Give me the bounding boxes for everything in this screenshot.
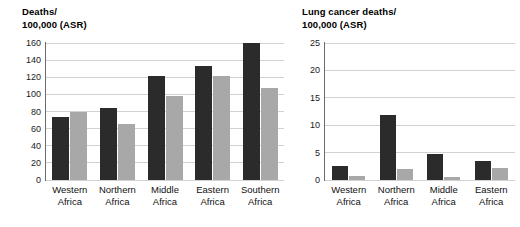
bar-series-dark-southern-africa — [243, 43, 260, 180]
bar-series-light-eastern-africa — [492, 168, 508, 180]
x-axis-category-label: Western Africa — [46, 184, 94, 208]
gridline — [325, 97, 515, 98]
bar-series-dark-western-africa — [332, 166, 348, 180]
x-axis-category-label: Northern Africa — [94, 184, 142, 208]
bar-series-light-northern-africa — [118, 124, 135, 180]
y-axis-tick-label: 40 — [5, 141, 41, 150]
bar-series-light-northern-africa — [397, 169, 413, 181]
y-axis-tick-label: 140 — [5, 56, 41, 65]
y-axis-tick-label: 60 — [5, 124, 41, 133]
y-axis-tick-label: 25 — [290, 39, 320, 48]
y-axis-tick-label: 10 — [290, 121, 320, 130]
bar-series-dark-eastern-africa — [195, 66, 212, 180]
y-axis-tick-label: 120 — [5, 73, 41, 82]
y-axis-tick-label: 20 — [5, 158, 41, 167]
bar-series-dark-middle-africa — [427, 154, 443, 180]
gridline — [325, 70, 515, 71]
bar-series-light-middle-africa — [166, 96, 183, 180]
gridline — [325, 43, 515, 44]
x-axis-category-label: Middle Africa — [141, 184, 189, 208]
x-axis-category-label: Western Africa — [325, 184, 373, 208]
chart-title-lung-cancer: Lung cancer deaths/ 100,000 (ASR) — [302, 6, 396, 31]
y-axis-tick-label: 5 — [290, 148, 320, 157]
x-axis-category-label: Southern Africa — [236, 184, 284, 208]
plot-area-lung-cancer: 0510152025Western AfricaNorthern AfricaM… — [325, 43, 515, 180]
bar-series-dark-northern-africa — [380, 115, 396, 180]
y-axis-tick-label: 20 — [290, 66, 320, 75]
y-axis-line — [324, 42, 325, 181]
bar-series-light-middle-africa — [444, 177, 460, 180]
y-axis-tick-label: 15 — [290, 93, 320, 102]
y-axis-tick-label: 80 — [5, 107, 41, 116]
bar-series-dark-northern-africa — [100, 108, 117, 180]
bar-series-dark-western-africa — [52, 117, 69, 180]
x-axis-category-label: Eastern Africa — [468, 184, 516, 208]
y-axis-tick-label: 100 — [5, 90, 41, 99]
bar-series-light-western-africa — [70, 112, 87, 181]
x-axis-category-label: Middle Africa — [420, 184, 468, 208]
bar-series-dark-eastern-africa — [475, 161, 491, 180]
y-axis-tick-label: 0 — [290, 176, 320, 185]
x-axis-category-label: Northern Africa — [373, 184, 421, 208]
x-axis-category-label: Eastern Africa — [189, 184, 237, 208]
y-axis-tick-label: 160 — [5, 39, 41, 48]
gridline — [325, 125, 515, 126]
chart-panel-lung-cancer: Lung cancer deaths/ 100,000 (ASR) 051015… — [285, 0, 520, 227]
bar-series-light-western-africa — [349, 176, 365, 180]
bar-series-dark-middle-africa — [148, 76, 165, 180]
gridline — [325, 152, 515, 153]
bar-series-light-eastern-africa — [213, 76, 230, 180]
figure-root: Deaths/ 100,000 (ASR) 020406080100120140… — [0, 0, 520, 227]
y-axis-tick-label: 0 — [5, 176, 41, 185]
bar-series-light-southern-africa — [261, 88, 278, 180]
chart-title-all-cancer: Deaths/ 100,000 (ASR) — [22, 6, 87, 31]
plot-area-all-cancer: 020406080100120140160Western AfricaNorth… — [46, 43, 284, 180]
chart-panel-all-cancer: Deaths/ 100,000 (ASR) 020406080100120140… — [0, 0, 285, 227]
